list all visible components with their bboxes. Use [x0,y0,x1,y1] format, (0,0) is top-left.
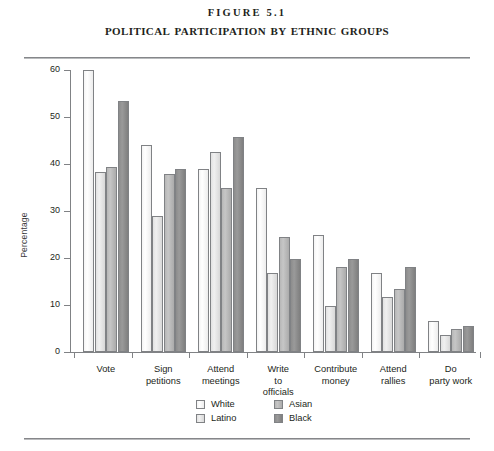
bar [106,167,117,352]
bar [210,152,221,352]
legend-item[interactable]: Latino [196,412,274,425]
bar [95,172,106,352]
x-tick-mark [480,352,481,358]
bar [233,137,244,352]
bar [175,169,186,352]
x-axis-label-line: officials [241,387,315,399]
bar [463,326,474,352]
bar [290,259,301,352]
legend-swatch-icon [196,400,205,409]
x-tick-mark [419,352,420,358]
bar [164,174,175,352]
bar [256,188,267,353]
bar [83,70,94,352]
title-divider-top [24,57,470,59]
legend-item[interactable]: Black [274,412,352,425]
legend-swatch-icon [274,414,283,423]
legend-swatch-icon [196,414,205,423]
y-tick-mark [64,352,71,353]
x-tick-mark [132,352,133,358]
x-axis-label: Doparty work [414,364,488,387]
legend-item[interactable]: Asian [274,398,352,411]
bar [152,216,163,352]
chart-legend: WhiteAsianLatinoBlack [196,398,356,425]
figure-container: FIGURE 5.1 POLITICAL PARTICIPATION BY ET… [0,0,494,451]
bar [428,321,439,352]
bar [451,329,462,353]
bar [336,267,347,352]
plot-area: Percentage 0102030405060 VoteSignpetitio… [0,62,494,362]
bar [394,289,405,352]
bar [198,169,209,352]
bar [267,273,278,352]
bar [348,259,359,352]
x-tick-mark [74,352,75,358]
bar [118,101,129,352]
legend-label: Latino [211,413,236,424]
bar [440,335,451,352]
bar [405,267,416,352]
bar [141,145,152,352]
legend-label: Asian [289,399,312,410]
x-tick-mark [304,352,305,358]
bars-layer [0,70,494,352]
figure-number: FIGURE 5.1 [0,6,494,19]
legend-item[interactable]: White [196,398,274,411]
bar [313,235,324,352]
x-tick-mark [247,352,248,358]
figure-divider-bottom [24,438,470,440]
legend-label: White [211,399,235,410]
bar [279,237,290,352]
bar [325,306,336,352]
x-tick-mark [362,352,363,358]
x-tick-mark [189,352,190,358]
bar [371,273,382,352]
legend-swatch-icon [274,400,283,409]
x-axis-label-line: party work [414,376,488,388]
figure-title-block: FIGURE 5.1 POLITICAL PARTICIPATION BY ET… [0,6,494,40]
legend-label: Black [289,413,312,424]
bar [221,188,232,353]
bar [382,297,393,352]
x-axis-label-line: Do [414,364,488,376]
figure-title: POLITICAL PARTICIPATION BY ETHNIC GROUPS [0,19,494,40]
